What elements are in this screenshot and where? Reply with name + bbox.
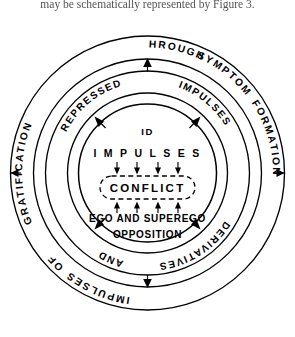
middle-ring-label-and: AND xyxy=(95,249,124,270)
middle-ring-outer-edge xyxy=(46,71,250,275)
page-caption-text: may be schematically represented by Figu… xyxy=(0,0,295,11)
conflict-cycle-diagram: GRATIFICATION OF IMPULSES THROUGH SYMPTO… xyxy=(0,14,295,337)
middle-arrow-bottom xyxy=(143,275,152,288)
inner-up-arrow-4 xyxy=(175,202,181,214)
inner-down-arrow-2 xyxy=(134,162,140,175)
inner-up-arrow-3 xyxy=(155,202,161,214)
middle-ring-label-derivatives: DERIVATIVES xyxy=(158,220,233,272)
inner-down-arrow-3 xyxy=(155,162,161,175)
middle-ring-label-repressed: REPRESSED xyxy=(58,77,123,133)
inner-label-ego-superego: EGO AND SUPEREGO xyxy=(89,213,206,224)
middle-arrow-top xyxy=(143,58,152,72)
inner-up-arrow-1 xyxy=(114,202,120,214)
inner-label-impulses: I M P U L S E S xyxy=(93,147,201,159)
inner-label-id: ID xyxy=(141,126,153,137)
outer-ring-label-formation: FORMATION xyxy=(250,98,282,177)
outer-ring-circle xyxy=(11,36,285,310)
inner-label-opposition: OPPOSITION xyxy=(113,229,182,240)
inner-up-arrow-2 xyxy=(134,202,140,214)
inner-down-arrow-group xyxy=(114,162,181,175)
inner-up-arrow-group xyxy=(114,202,181,214)
figure-container: GRATIFICATION OF IMPULSES THROUGH SYMPTO… xyxy=(0,14,295,337)
inner-label-conflict: CONFLICT xyxy=(110,182,186,194)
outer-ring-label-through: THROUGH xyxy=(0,14,207,62)
inner-down-arrow-1 xyxy=(114,162,120,175)
outer-ring-label-of: OF xyxy=(45,252,66,273)
inner-down-arrow-4 xyxy=(175,162,181,175)
